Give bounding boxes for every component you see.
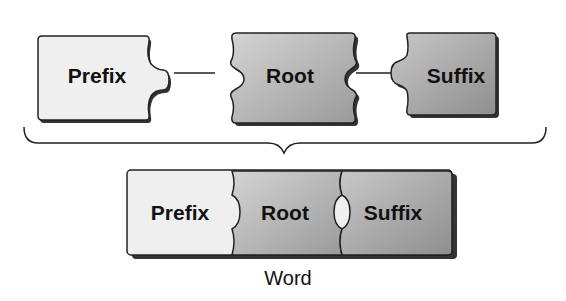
- combined-suffix-label: Suffix: [364, 201, 422, 225]
- prefix-label: Prefix: [68, 64, 126, 88]
- puzzle-diagram: [0, 0, 566, 301]
- suffix-label: Suffix: [427, 64, 485, 88]
- root-label: Root: [266, 64, 314, 88]
- word-caption: Word: [264, 267, 311, 290]
- combined-root-label: Root: [261, 201, 309, 225]
- combined-prefix-label: Prefix: [151, 201, 209, 225]
- grouping-brace: [24, 127, 546, 153]
